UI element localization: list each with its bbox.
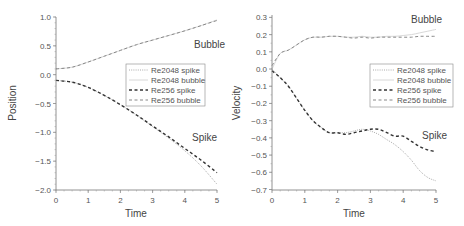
velocity-x-ticks: 012345 (270, 190, 439, 205)
y-tick-label: −1.5 (35, 157, 51, 166)
y-tick-label: 0.5 (40, 42, 52, 51)
y-tick-label: 0.0 (256, 65, 268, 74)
x-tick-label: 4 (401, 196, 406, 205)
velocity-x-label: Time (343, 208, 365, 219)
position-legend: Re2048 spike Re2048 bubble Re256 spike R… (126, 64, 206, 106)
y-tick-label: −0.4 (251, 134, 267, 143)
velocity-legend: Re2048 spike Re2048 bubble Re256 spike R… (370, 64, 453, 107)
legend-label: Re256 bubble (151, 96, 201, 105)
bubble-annotation: Bubble (411, 14, 443, 25)
x-tick-label: 5 (434, 196, 439, 205)
y-tick-label: 0.0 (40, 71, 52, 80)
legend-label: Re2048 bubble (397, 76, 452, 85)
y-tick-label: −0.5 (35, 100, 51, 109)
y-tick-label: −1.0 (35, 128, 51, 137)
velocity-y-ticks: 0.30.20.10.0−0.1−0.2−0.3−0.4−0.5−0.6−0.7 (251, 13, 272, 194)
position-x-ticks: 012345 (54, 190, 220, 205)
x-tick-label: 4 (183, 196, 188, 205)
position-plot: 1.00.50.0−0.5−1.0−1.5−2.0 012345 Time Po… (7, 13, 226, 219)
legend-label: Re2048 spike (151, 66, 200, 75)
series-line-re256-bubble (56, 21, 217, 69)
x-tick-label: 1 (303, 196, 308, 205)
bubble-annotation: Bubble (194, 39, 226, 50)
velocity-plot: 0.30.20.10.0−0.1−0.2−0.3−0.4−0.5−0.6−0.7… (231, 13, 453, 219)
velocity-y-label: Velocity (231, 86, 242, 120)
x-tick-label: 3 (150, 196, 155, 205)
x-tick-label: 0 (270, 196, 275, 205)
legend-label: Re256 spike (397, 86, 442, 95)
y-tick-label: −0.7 (251, 186, 267, 195)
y-tick-label: −0.5 (251, 151, 267, 160)
x-tick-label: 2 (118, 196, 123, 205)
figure: 1.00.50.0−0.5−1.0−1.5−2.0 012345 Time Po… (0, 0, 464, 226)
position-x-label: Time (125, 208, 147, 219)
spike-annotation: Spike (422, 130, 447, 141)
y-tick-label: −2.0 (35, 186, 51, 195)
series-line-re256-bubble (272, 36, 436, 65)
y-tick-label: −0.2 (251, 99, 267, 108)
x-tick-label: 5 (215, 196, 220, 205)
position-y-ticks: 1.00.50.0−0.5−1.0−1.5−2.0 (35, 13, 56, 195)
y-tick-label: −0.1 (251, 82, 267, 91)
legend-label: Re256 bubble (397, 96, 447, 105)
x-tick-label: 2 (335, 196, 340, 205)
y-tick-label: 0.3 (256, 13, 268, 22)
y-tick-label: −0.6 (251, 168, 267, 177)
legend-label: Re2048 bubble (151, 76, 206, 85)
y-tick-label: 0.1 (256, 48, 268, 57)
legend-label: Re2048 spike (397, 66, 446, 75)
position-y-label: Position (7, 85, 18, 121)
y-tick-label: 1.0 (40, 13, 52, 22)
series-line-re2048-bubble (272, 29, 436, 69)
y-tick-label: −0.3 (251, 117, 267, 126)
x-tick-label: 3 (368, 196, 373, 205)
spike-annotation: Spike (192, 132, 217, 143)
x-tick-label: 0 (54, 196, 59, 205)
legend-label: Re256 spike (151, 86, 196, 95)
x-tick-label: 1 (86, 196, 91, 205)
y-tick-label: 0.2 (256, 31, 268, 40)
